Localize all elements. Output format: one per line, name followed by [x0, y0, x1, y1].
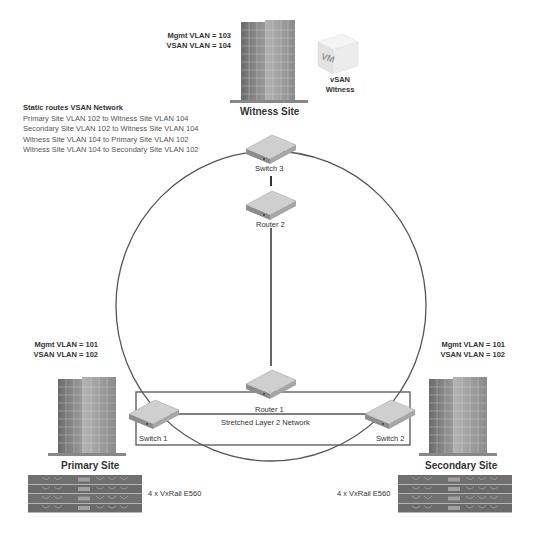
witness-site-title: Witness Site	[240, 106, 299, 117]
switch3-icon	[244, 131, 298, 165]
router2-label: Router 2	[256, 220, 285, 229]
primary-mgmt-vlan: Mgmt VLAN = 101	[20, 340, 98, 350]
switch3-label: Switch 3	[255, 164, 283, 173]
vsan-witness-line2: Witness	[320, 85, 360, 95]
vsan-witness-line1: vSAN	[320, 75, 360, 85]
primary-building-icon	[47, 375, 127, 457]
witness-mgmt-vlan: Mgmt VLAN = 103	[150, 31, 231, 41]
static-route-item: Witness Site VLAN 104 to Primary Site VL…	[23, 135, 199, 146]
router2-icon	[244, 187, 298, 221]
vm-cube-icon: VM	[313, 28, 363, 78]
vsan-witness-label: vSAN Witness	[320, 75, 360, 95]
switch1-label: Switch 1	[139, 434, 167, 443]
stretched-l2-label: Stretched Layer 2 Network	[221, 418, 310, 427]
router1-icon	[244, 366, 298, 400]
switch1-icon	[127, 396, 181, 430]
secondary-vsan-vlan: VSAN VLAN = 102	[427, 350, 505, 360]
secondary-site-title: Secondary Site	[425, 460, 497, 471]
static-route-item: Witness Site VLAN 104 to Secondary Site …	[23, 145, 199, 156]
static-route-item: Secondary Site VLAN 102 to Witness Site …	[23, 124, 199, 135]
static-route-item: Primary Site VLAN 102 to Witness Site VL…	[23, 114, 199, 125]
witness-building-icon	[228, 20, 310, 104]
primary-nodes-label: 4 x VxRail E560	[148, 489, 201, 498]
router1-label: Router 1	[255, 405, 284, 414]
primary-vsan-vlan: VSAN VLAN = 102	[20, 350, 98, 360]
static-routes-title: Static routes VSAN Network	[23, 103, 199, 114]
primary-site-title: Primary Site	[61, 460, 119, 471]
switch2-label: Switch 2	[376, 434, 404, 443]
secondary-mgmt-vlan: Mgmt VLAN = 101	[427, 340, 505, 350]
secondary-nodes-label: 4 x VxRail E560	[337, 489, 390, 498]
witness-vsan-vlan: VSAN VLAN = 104	[150, 41, 231, 51]
static-routes-legend: Static routes VSAN Network Primary Site …	[23, 103, 199, 156]
secondary-vxrail-stack-icon	[398, 475, 514, 513]
witness-vlan-labels: Mgmt VLAN = 103 VSAN VLAN = 104	[150, 31, 231, 51]
secondary-vlan-labels: Mgmt VLAN = 101 VSAN VLAN = 102	[427, 340, 505, 360]
secondary-building-icon	[418, 375, 498, 457]
primary-vlan-labels: Mgmt VLAN = 101 VSAN VLAN = 102	[20, 340, 98, 360]
switch2-icon	[363, 396, 417, 430]
primary-vxrail-stack-icon	[28, 475, 144, 513]
